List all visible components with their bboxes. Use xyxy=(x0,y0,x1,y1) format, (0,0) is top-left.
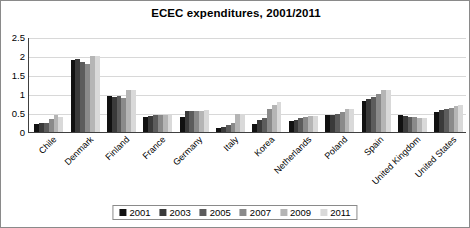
legend-swatch-icon xyxy=(200,209,207,216)
bar-group xyxy=(325,38,354,132)
legend-item[interactable]: 2001 xyxy=(119,208,150,218)
bar-group xyxy=(289,38,318,132)
bar xyxy=(386,90,391,132)
legend-label: 2001 xyxy=(129,208,150,218)
x-tick-label: Spain xyxy=(363,135,386,158)
bar-group xyxy=(398,38,427,132)
legend-swatch-icon xyxy=(320,209,327,216)
x-tick-label: Finland xyxy=(104,135,132,163)
bar-group xyxy=(143,38,172,132)
legend-item[interactable]: 2009 xyxy=(280,208,311,218)
legend-label: 2011 xyxy=(330,208,350,218)
bar-group xyxy=(180,38,209,132)
y-tick-label: 0 xyxy=(1,128,25,138)
legend-label: 2007 xyxy=(250,208,271,218)
bar xyxy=(458,105,463,132)
legend-label: 2009 xyxy=(290,208,311,218)
legend-item[interactable]: 2011 xyxy=(320,208,350,218)
legend-item[interactable]: 2007 xyxy=(240,208,271,218)
bar-group xyxy=(71,38,100,132)
bar xyxy=(131,90,136,132)
legend-item[interactable]: 2003 xyxy=(160,208,191,218)
bar-group xyxy=(252,38,281,132)
bar xyxy=(422,118,427,132)
legend-label: 2005 xyxy=(210,208,231,218)
x-tick-label: Denmark xyxy=(63,135,96,168)
chart-figure: ECEC expenditures, 2001/2011 00.511.522.… xyxy=(0,0,470,228)
x-tick-label: Germany xyxy=(171,135,204,168)
bar xyxy=(277,102,282,132)
bar xyxy=(58,117,63,132)
x-tick-label: Italy xyxy=(222,135,241,154)
bar-group xyxy=(107,38,136,132)
x-tick-label: Chile xyxy=(38,135,60,157)
x-tick-label: Korea xyxy=(253,135,277,159)
bar xyxy=(313,116,318,132)
bar xyxy=(168,115,173,132)
legend-item[interactable]: 2005 xyxy=(200,208,231,218)
bar xyxy=(349,109,354,132)
bar-group xyxy=(434,38,463,132)
bar xyxy=(95,56,100,132)
chart-legend: 200120032005200720092011 xyxy=(112,205,357,221)
bar-group xyxy=(34,38,63,132)
x-tick-label: France xyxy=(141,135,168,162)
bar xyxy=(204,110,209,132)
y-tick-label: 1 xyxy=(1,90,25,100)
x-tick-label: Poland xyxy=(323,135,350,162)
bar xyxy=(240,114,245,132)
y-tick-label: 1.5 xyxy=(1,71,25,81)
x-tick-label: Netherlands xyxy=(272,135,313,176)
plot-area xyxy=(28,38,466,133)
y-axis: 00.511.522.5 xyxy=(1,38,25,133)
bar-group xyxy=(362,38,391,132)
chart-title: ECEC expenditures, 2001/2011 xyxy=(1,7,470,19)
y-tick-label: 2.5 xyxy=(1,33,25,43)
bar-group xyxy=(216,38,245,132)
x-axis-labels: ChileDenmarkFinlandFranceGermanyItalyKor… xyxy=(28,133,466,189)
legend-swatch-icon xyxy=(240,209,247,216)
legend-swatch-icon xyxy=(119,209,126,216)
legend-swatch-icon xyxy=(160,209,167,216)
bars-layer xyxy=(31,38,466,132)
legend-swatch-icon xyxy=(280,209,287,216)
y-tick-label: 0.5 xyxy=(1,109,25,119)
legend-label: 2003 xyxy=(170,208,191,218)
y-tick-label: 2 xyxy=(1,52,25,62)
